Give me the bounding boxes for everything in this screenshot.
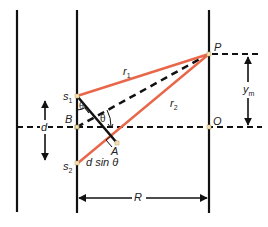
label-theta-B: θ [100, 114, 106, 124]
label-d: d [40, 122, 48, 133]
label-O: O [213, 116, 222, 127]
ray-r2 [78, 54, 209, 163]
point-s1-marker [75, 94, 79, 98]
label-d-sin-theta: d sin θ [86, 157, 118, 168]
point-O-marker [207, 125, 211, 129]
label-R: R [134, 192, 142, 203]
label-r1: r1 [123, 66, 131, 77]
angle-arc-B [107, 110, 111, 127]
label-B: B [65, 114, 72, 125]
label-r2: r2 [170, 98, 178, 109]
point-s2-marker [75, 161, 79, 165]
label-s2: s2 [63, 161, 72, 172]
label-theta-s1: θ [79, 102, 84, 111]
point-B-marker [75, 125, 79, 129]
label-ym: ym [242, 84, 255, 95]
point-P-marker [207, 52, 211, 56]
label-s1: s1 [63, 91, 72, 102]
label-P: P [214, 42, 221, 53]
double-slit-diagram: s1 s2 B A P O r1 r2 d ym R d sin θ θ θ [0, 0, 268, 227]
